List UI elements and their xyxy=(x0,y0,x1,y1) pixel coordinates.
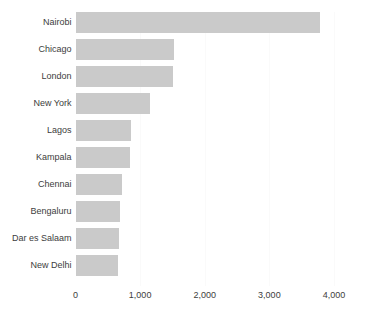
bar-row[interactable] xyxy=(76,174,123,195)
bar-row[interactable] xyxy=(76,201,121,222)
bar-row[interactable] xyxy=(76,12,320,33)
bar-chart: 01,0002,0003,0004,000 NairobiChicagoLond… xyxy=(0,0,366,317)
bar-row[interactable] xyxy=(76,39,175,60)
bar-row[interactable] xyxy=(76,147,131,168)
x-axis-tick-label: 3,000 xyxy=(258,290,281,301)
x-axis-tick-label: 4,000 xyxy=(323,290,346,301)
x-axis-tick-label: 2,000 xyxy=(193,290,216,301)
bar[interactable] xyxy=(76,120,131,141)
bar[interactable] xyxy=(76,66,174,87)
y-axis-tick-label: Bengaluru xyxy=(0,201,72,222)
x-axis-tick-label: 0 xyxy=(73,290,78,301)
y-axis-tick-label: Kampala xyxy=(0,147,72,168)
bar-row[interactable] xyxy=(76,120,131,141)
plot-area xyxy=(76,12,335,286)
y-axis-tick-label: Chennai xyxy=(0,174,72,195)
bar-row[interactable] xyxy=(76,228,120,249)
bar-row[interactable] xyxy=(76,255,119,276)
gridline-4000 xyxy=(334,12,335,286)
y-axis-tick-label: New York xyxy=(0,93,72,114)
bar-row[interactable] xyxy=(76,66,174,87)
bar[interactable] xyxy=(76,255,119,276)
bar[interactable] xyxy=(76,201,121,222)
bar[interactable] xyxy=(76,147,131,168)
y-axis-tick-label: Chicago xyxy=(0,39,72,60)
y-axis-tick-label: Nairobi xyxy=(0,12,72,33)
bar[interactable] xyxy=(76,174,123,195)
x-axis: 01,0002,0003,0004,000 xyxy=(76,286,335,308)
y-axis-tick-label: Dar es Salaam xyxy=(0,228,72,249)
x-axis-tick-label: 1,000 xyxy=(129,290,152,301)
y-axis-tick-label: Lagos xyxy=(0,120,72,141)
bar[interactable] xyxy=(76,93,151,114)
bar[interactable] xyxy=(76,12,320,33)
bar-row[interactable] xyxy=(76,93,151,114)
bar[interactable] xyxy=(76,228,120,249)
y-axis-tick-label: New Delhi xyxy=(0,255,72,276)
y-axis-tick-label: London xyxy=(0,66,72,87)
bar-series xyxy=(76,12,335,286)
bar[interactable] xyxy=(76,39,175,60)
